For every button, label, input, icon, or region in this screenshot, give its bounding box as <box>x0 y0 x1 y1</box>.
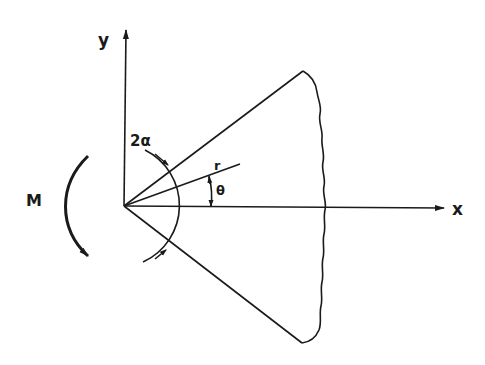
wedge-angle-label: 2α <box>130 132 151 150</box>
wedge-diagram: y x M 2α r θ <box>0 0 485 365</box>
x-axis-label: x <box>452 199 463 219</box>
wedge-upper-edge <box>124 71 303 206</box>
radius-label: r <box>214 158 221 173</box>
moment-arc <box>66 156 89 256</box>
moment-label: M <box>26 191 42 210</box>
wedge-lower-edge <box>124 206 302 343</box>
y-axis-label: y <box>98 30 109 50</box>
x-axis <box>124 206 444 208</box>
theta-label: θ <box>216 183 225 198</box>
y-axis <box>124 30 126 206</box>
